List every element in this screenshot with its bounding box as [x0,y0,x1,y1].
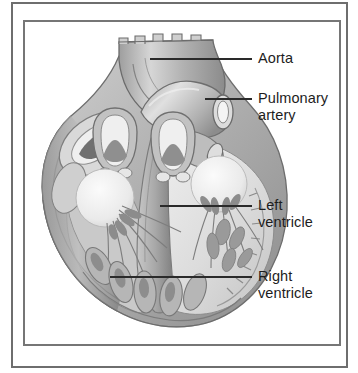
label-left-ventricle: Left ventricle [258,197,313,230]
figure-page: Aorta Pulmonary artery Left ventricle Ri… [0,0,358,373]
label-pulmonary-artery: Pulmonary artery [258,90,328,123]
label-aorta: Aorta [258,50,293,67]
leader-line-aorta [150,58,252,60]
label-layer: Aorta Pulmonary artery Left ventricle Ri… [0,0,358,373]
leader-line-left-ventricle [160,205,252,207]
leader-line-pulmonary-artery [205,98,252,100]
label-right-ventricle: Right ventricle [258,268,313,301]
leader-line-right-ventricle [110,276,252,278]
